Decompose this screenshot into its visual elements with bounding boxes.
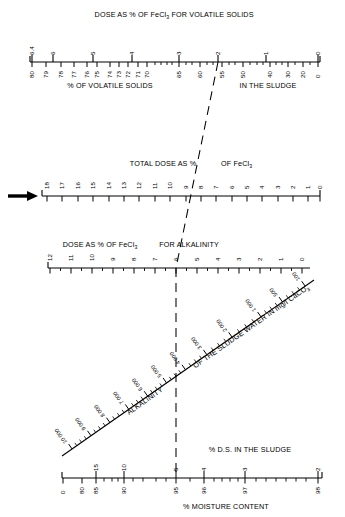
moisture-tick-96: 96: [200, 487, 207, 494]
vs-percent-tick-73: 73: [115, 71, 122, 78]
vs-dose-tick-6.4: 6.4: [28, 46, 35, 55]
moisture-tick-80: 80: [78, 487, 85, 494]
vs-percent-tick-80: 80: [28, 71, 35, 78]
total-dose-tick-5: 5: [243, 185, 250, 189]
total-dose-tick-10: 10: [166, 182, 173, 189]
total-dose-tick-7: 7: [212, 185, 219, 189]
dry-solids-labels: 15105432: [92, 464, 321, 471]
total-dose-tick-13: 13: [120, 182, 127, 189]
total-dose-tick-11: 11: [151, 182, 158, 189]
alk-dose-tick-12: 12: [46, 254, 53, 261]
alkalinity-dose-title-right: FOR ALKALINITY: [157, 240, 219, 249]
fecl3-dose-nomogram: DOSE AS % OF FeCl3 FOR VOLATILE SOLIDS 6…: [0, 0, 345, 517]
total-dose-tick-4: 4: [258, 185, 265, 189]
alk-dose-tick-10: 10: [88, 254, 95, 261]
alk-dose-tick-8: 8: [130, 257, 137, 261]
result-arrow-icon: [8, 191, 38, 201]
alk-dose-tick-0: 0: [298, 257, 305, 261]
ds-tick-4: 4: [200, 467, 207, 471]
total-dose-labels: 1817161514131211109876543210: [43, 182, 323, 189]
alkalinity-dose-title-left: DOSE AS % OF FeCl3: [48, 240, 148, 251]
moisture-tick-0: 0: [59, 490, 66, 494]
alkalinity-diagonal-axis: 10 0009 0008 0007 0006 0005 0004 0003 00…: [53, 271, 320, 456]
alkalinity-tick-10000: 10 000: [53, 427, 68, 444]
ds-tick-3: 3: [241, 467, 248, 471]
vs-dose-tick-1: 1: [262, 51, 269, 55]
vs-percent-tick-75: 75: [93, 71, 100, 78]
volatile-solids-sublabel-left: % OF VOLATILE SOLIDS: [67, 81, 153, 90]
total-dose-title-left: TOTAL DOSE AS %: [130, 159, 197, 168]
moisture-tick-97: 97: [241, 487, 248, 494]
alkalinity-tick-6000: 6 000: [131, 377, 144, 392]
chart-title: DOSE AS % OF FeCl3 FOR VOLATILE SOLIDS: [84, 10, 260, 20]
vs-dose-tick-2: 2: [214, 51, 221, 55]
total-dose-tick-0: 0: [316, 185, 323, 189]
vs-percent-tick-79: 79: [42, 71, 49, 78]
alkalinity-tick-9000: 9 000: [74, 417, 87, 432]
total-dose-tick-17: 17: [58, 182, 65, 189]
alkalinity-dose-labels: 1211109876543210: [46, 254, 305, 261]
total-dose-tick-1: 1: [304, 185, 311, 189]
alkalinity-tick-100: 100: [291, 271, 301, 282]
total-dose-tick-6: 6: [228, 185, 235, 189]
vs-dose-tick-5: 5: [89, 51, 96, 55]
vs-percent-tick-30: 30: [284, 71, 291, 78]
vs-percent-tick-71: 71: [134, 71, 141, 78]
total-dose-tick-8: 8: [197, 185, 204, 189]
moisture-tick-98: 98: [314, 487, 321, 494]
vs-dose-tick-4: 4: [128, 51, 135, 55]
vs-dose-tick-3: 3: [175, 51, 182, 55]
volatile-solids-sublabel-right: IN THE SLUDGE: [240, 81, 297, 90]
alk-dose-tick-7: 7: [151, 257, 158, 261]
ds-tick-15: 15: [92, 464, 99, 471]
alkalinity-diagonal-labels: 10 0009 0008 0007 0006 0005 0004 0003 00…: [53, 271, 301, 445]
vs-percent-tick-77: 77: [70, 71, 77, 78]
alkalinity-tick-3000: 3 000: [190, 336, 203, 351]
alk-dose-tick-9: 9: [109, 257, 116, 261]
total-dose-tick-12: 12: [135, 182, 142, 189]
moisture-content-ticks: [63, 471, 318, 484]
moisture-content-title: % MOISTURE CONTENT: [183, 502, 269, 511]
volatile-solids-percent-labels: 8079787776757473727170656055504030200: [28, 71, 321, 78]
total-dose-tick-15: 15: [89, 182, 96, 189]
total-dose-ticks: [47, 196, 320, 202]
vs-percent-tick-76: 76: [83, 71, 90, 78]
alk-dose-tick-5: 5: [193, 257, 200, 261]
total-dose-tick-18: 18: [43, 182, 50, 189]
moisture-content-axis: 15105432 080859095969798 % D.S. IN THE S…: [59, 445, 322, 511]
moisture-tick-85: 85: [92, 487, 99, 494]
dry-solids-title: % D.S. IN THE SLUDGE: [209, 445, 291, 454]
moisture-content-labels: 080859095969798: [59, 487, 321, 494]
total-dose-title-right: OF FeCl3: [206, 159, 263, 170]
volatile-solids-minor-ticks: [32, 62, 318, 67]
alk-dose-tick-3: 3: [235, 257, 242, 261]
total-dose-tick-16: 16: [74, 182, 81, 189]
ds-tick-10: 10: [120, 464, 127, 471]
total-dose-axis: 1817161514131211109876543210 TOTAL DOSE …: [8, 159, 323, 202]
alkalinity-tick-2000: 2 000: [215, 318, 228, 333]
volatile-solids-axis: 6.46543210 80797877767574737271706560555…: [28, 46, 321, 90]
alk-dose-tick-4: 4: [214, 257, 221, 261]
vs-dose-tick-6: 6: [49, 51, 56, 55]
vs-percent-tick-50: 50: [239, 71, 246, 78]
alkalinity-tick-5000: 5 000: [150, 364, 163, 379]
alkalinity-tick-1000: 1 000: [244, 298, 257, 313]
volatile-solids-dose-labels: 6.46543210: [28, 46, 321, 55]
volatile-solids-major-ticks: [32, 55, 318, 62]
moisture-tick-90: 90: [120, 487, 127, 494]
total-dose-tick-3: 3: [274, 185, 281, 189]
total-dose-tick-9: 9: [182, 185, 189, 189]
total-dose-tick-2: 2: [289, 185, 296, 189]
vs-percent-tick-70: 70: [143, 71, 150, 78]
alkalinity-tick-4000: 4 000: [168, 351, 181, 366]
ds-tick-2: 2: [314, 467, 321, 471]
vs-percent-tick-78: 78: [57, 71, 64, 78]
vs-percent-tick-74: 74: [106, 71, 113, 78]
vs-percent-tick-72: 72: [124, 71, 131, 78]
vs-percent-tick-0: 0: [314, 74, 321, 78]
total-dose-tick-14: 14: [105, 182, 112, 189]
alkalinity-diagonal-title-2: OF THE SLUDGE WATER IN mg/l CaCO3: [179, 276, 321, 380]
moisture-tick-95: 95: [172, 487, 179, 494]
vs-percent-tick-20: 20: [299, 71, 306, 78]
alkalinity-tick-7000: 7 000: [112, 390, 125, 405]
